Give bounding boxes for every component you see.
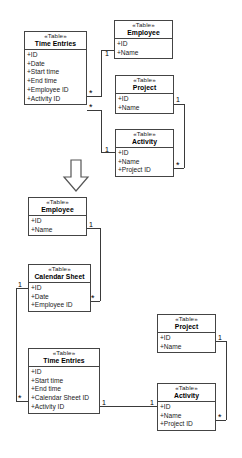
table-attributes: +ID +Name xyxy=(116,94,173,113)
connector-time-entries-activity-vertical xyxy=(101,110,102,152)
table-attributes: +ID +Name +Project ID xyxy=(158,402,215,430)
attribute-row: +ID xyxy=(31,217,86,226)
attribute-row: +Activity ID xyxy=(27,95,86,104)
multiplicity-activity-end: 1 xyxy=(150,399,154,406)
connector-project-activity-vertical xyxy=(184,104,185,168)
attribute-row: +ID xyxy=(160,334,215,343)
attribute-row: +Project ID xyxy=(160,420,215,429)
connector-time-entries-activity xyxy=(100,406,157,407)
attribute-row: +Name xyxy=(31,226,86,235)
multiplicity-activity-end: 1 xyxy=(105,146,109,153)
table-name-label: Project xyxy=(158,323,215,330)
lower-table-employee[interactable]: «Table» Employee +ID +Name xyxy=(28,197,87,236)
attribute-row: +Start time xyxy=(27,68,86,77)
table-name-label: Time Entries xyxy=(29,357,99,364)
attribute-row: +Name xyxy=(117,49,172,58)
table-header: «Table» Calendar Sheet xyxy=(29,265,90,283)
table-attributes: +ID +Date +Start time +End time +Employe… xyxy=(25,50,86,104)
upper-table-employee[interactable]: «Table» Employee +ID +Name xyxy=(114,20,173,59)
stereotype-label: «Table» xyxy=(29,199,86,206)
table-header: «Table» Project xyxy=(158,315,215,333)
attribute-row: +Calendar Sheet ID xyxy=(31,394,99,403)
table-name-label: Employee xyxy=(115,29,172,36)
stereotype-label: «Table» xyxy=(29,266,90,273)
uml-diagram-canvas: «Table» Time Entries +ID +Date +Start ti… xyxy=(0,0,242,458)
multiplicity-project-end: 1 xyxy=(176,96,180,103)
lower-table-time-entries[interactable]: «Table» Time Entries +ID +Start time +En… xyxy=(28,348,100,414)
attribute-row: +Date xyxy=(27,60,86,69)
stereotype-label: «Table» xyxy=(158,316,215,323)
multiplicity-calendar-sheet-end: 1 xyxy=(18,281,22,288)
table-header: «Table» Project xyxy=(116,76,173,94)
connector-employee-calendar-sheet-top xyxy=(87,228,100,229)
attribute-row: +ID xyxy=(118,95,173,104)
lower-table-activity[interactable]: «Table» Activity +ID +Name +Project ID xyxy=(157,383,216,431)
multiplicity-activity-project-end: * xyxy=(218,413,222,422)
attribute-row: +ID xyxy=(31,284,90,293)
table-attributes: +ID +Date +Employee ID xyxy=(29,283,90,311)
upper-table-project[interactable]: «Table» Project +ID +Name xyxy=(115,75,174,114)
connector-time-entries-employee-vertical xyxy=(101,50,102,97)
multiplicity-activity-project-end: * xyxy=(176,161,180,170)
connector-calendar-sheet-time-entries-top xyxy=(16,288,28,289)
multiplicity-employee-end: 1 xyxy=(89,221,93,228)
attribute-row: +Start time xyxy=(31,377,99,386)
attribute-row: +ID xyxy=(31,368,99,377)
attribute-row: +ID xyxy=(118,149,173,158)
stereotype-label: «Table» xyxy=(25,33,86,40)
table-header: «Table» Time Entries xyxy=(25,32,86,50)
table-header: «Table» Time Entries xyxy=(29,349,99,367)
multiplicity-project-end: 1 xyxy=(218,334,222,341)
multiplicity-calendar-sheet-to-employee: * xyxy=(91,294,95,303)
connector-project-activity-vertical xyxy=(226,341,227,420)
stereotype-label: «Table» xyxy=(116,77,173,84)
table-name-label: Calendar Sheet xyxy=(29,273,90,280)
connector-employee-calendar-sheet-vertical xyxy=(100,228,101,301)
attribute-row: +Name xyxy=(160,343,215,352)
attribute-row: +Activity ID xyxy=(31,403,99,412)
stereotype-label: «Table» xyxy=(158,385,215,392)
table-header: «Table» Employee xyxy=(29,198,86,216)
attribute-row: +Employee ID xyxy=(27,86,86,95)
attribute-row: +ID xyxy=(160,403,215,412)
multiplicity-time-entries-activity: * xyxy=(89,103,93,112)
upper-table-time-entries[interactable]: «Table» Time Entries +ID +Date +Start ti… xyxy=(24,31,87,105)
multiplicity-time-entries-employee: * xyxy=(89,89,93,98)
attribute-row: +Project ID xyxy=(118,166,173,175)
table-header: «Table» Activity xyxy=(116,130,173,148)
multiplicity-time-entries-to-calendar-sheet: * xyxy=(18,394,22,403)
table-name-label: Activity xyxy=(116,138,173,145)
stereotype-label: «Table» xyxy=(116,131,173,138)
lower-table-project[interactable]: «Table» Project +ID +Name xyxy=(157,314,216,353)
table-name-label: Employee xyxy=(29,206,86,213)
multiplicity-time-entries-to-activity: 1 xyxy=(102,399,106,406)
attribute-row: +Employee ID xyxy=(31,301,90,310)
connector-project-activity-top xyxy=(216,341,226,342)
upper-table-activity[interactable]: «Table» Activity +ID +Name +Project ID xyxy=(115,129,174,177)
table-name-label: Activity xyxy=(158,392,215,399)
table-name-label: Time Entries xyxy=(25,40,86,47)
attribute-row: +ID xyxy=(117,40,172,49)
attribute-row: +ID xyxy=(27,51,86,60)
stereotype-label: «Table» xyxy=(29,350,99,357)
table-header: «Table» Activity xyxy=(158,384,215,402)
attribute-row: +Date xyxy=(31,293,90,302)
stereotype-label: «Table» xyxy=(115,22,172,29)
table-name-label: Project xyxy=(116,84,173,91)
table-header: «Table» Employee xyxy=(115,21,172,39)
attribute-row: +Name xyxy=(118,158,173,167)
attribute-row: +End time xyxy=(31,385,99,394)
table-attributes: +ID +Name xyxy=(158,333,215,352)
attribute-row: +End time xyxy=(27,77,86,86)
table-attributes: +ID +Start time +End time +Calendar Shee… xyxy=(29,367,99,413)
multiplicity-employee-end: 1 xyxy=(105,50,109,57)
connector-calendar-sheet-time-entries-vertical xyxy=(16,288,17,401)
connector-project-activity-top xyxy=(174,104,184,105)
table-attributes: +ID +Name +Project ID xyxy=(116,148,173,176)
lower-table-calendar-sheet[interactable]: «Table» Calendar Sheet +ID +Date +Employ… xyxy=(28,264,91,312)
attribute-row: +Name xyxy=(118,104,173,113)
transformation-down-arrow-icon xyxy=(62,159,90,193)
attribute-row: +Name xyxy=(160,412,215,421)
table-attributes: +ID +Name xyxy=(29,216,86,235)
table-attributes: +ID +Name xyxy=(115,39,172,58)
